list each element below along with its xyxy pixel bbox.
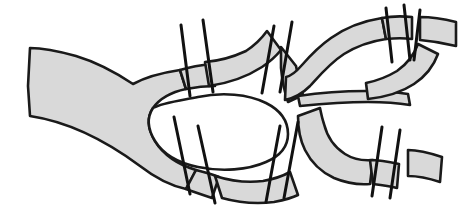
vessel-network-diagram — [0, 0, 462, 208]
vessel-segment-branch-upper-right-terminal — [420, 17, 456, 46]
vessel-segment-branch-lower-right-terminal — [408, 150, 442, 182]
figure-root: A black-and-white line drawing of a bran… — [0, 0, 462, 208]
